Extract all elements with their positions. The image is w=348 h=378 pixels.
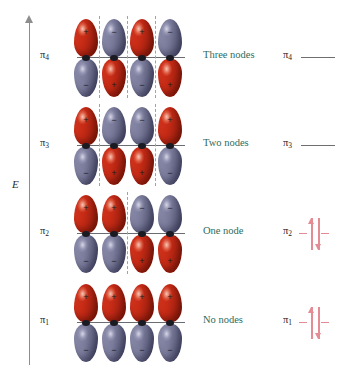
p-orbital: −+ [102,107,126,185]
phase-sign: − [130,81,154,90]
occupancy-symbol-subscript: 1 [288,318,292,327]
phase-sign: + [74,204,98,213]
occupancy-level: π1 [283,281,343,365]
phase-sign: − [102,28,126,37]
phase-sign: + [102,169,126,178]
orbital-lobe-lower: + [102,147,126,185]
orbital-node-pinch [138,320,146,326]
level-symbol-subscript: 4 [45,53,49,62]
orbital-node-pinch [110,55,118,61]
p-orbital: −+ [158,195,182,273]
level-symbol: π4 [40,49,49,62]
orbital-node-pinch [166,320,174,326]
orbital-lobe-lower: − [74,324,98,362]
orbital-lobe-upper: + [102,284,126,322]
orbital-lobe-lower: − [74,235,98,273]
electron-pair [307,218,323,250]
orbital-lobe-upper: + [74,107,98,145]
node-count-label: No nodes [203,314,243,325]
phase-sign: + [130,169,154,178]
p-orbital: +− [130,19,154,97]
orbital-lobe-lower: − [130,324,154,362]
orbital-node-pinch [82,320,90,326]
energy-level-line [299,322,307,323]
phase-sign: + [102,293,126,302]
orbital-lobe-upper: − [102,107,126,145]
orbital-lobe-lower: − [74,59,98,97]
orbital-node-pinch [110,320,118,326]
phase-sign: + [158,293,182,302]
node-count-label: One node [203,225,244,236]
p-orbital: −+ [130,195,154,273]
phase-sign: + [74,116,98,125]
p-orbital: −+ [102,19,126,97]
energy-level-row: π1+−+−+−+−No nodesπ1 [0,281,348,365]
orbital-lobe-lower: + [130,147,154,185]
orbital-node-pinch [110,231,118,237]
orbital-node-pinch [166,55,174,61]
occupancy-symbol-subscript: 3 [288,141,292,150]
occupancy-level: π2 [283,192,343,276]
phase-sign: − [130,346,154,355]
orbital-lobe-upper: + [102,195,126,233]
orbital-lobe-lower: − [102,235,126,273]
p-orbital: +− [74,284,98,362]
orbital-array: +−+−+−+− [72,281,190,365]
p-orbital: +− [74,107,98,185]
phase-sign: + [130,257,154,266]
phase-sign: − [158,204,182,213]
orbital-lobe-lower: + [158,235,182,273]
orbital-lobe-upper: + [158,107,182,145]
occupancy-level-symbol: π2 [283,225,292,238]
p-orbital: −+ [130,107,154,185]
node-plane-line [155,16,156,98]
orbital-node-pinch [138,55,146,61]
phase-sign: + [158,81,182,90]
p-orbital: +− [130,284,154,362]
electron-arrow-down [315,218,323,250]
energy-level-line [301,145,335,146]
orbital-lobe-upper: + [74,19,98,57]
phase-sign: − [102,346,126,355]
orbital-lobe-upper: − [102,19,126,57]
level-symbol-subscript: 3 [45,141,49,150]
orbital-lobe-lower: − [74,147,98,185]
level-symbol-subscript: 1 [45,318,49,327]
phase-sign: + [74,293,98,302]
phase-sign: − [74,346,98,355]
orbital-lobe-lower: − [130,59,154,97]
orbital-lobe-upper: + [74,195,98,233]
orbital-lobe-upper: + [74,284,98,322]
energy-level-line [301,57,335,58]
orbital-lobe-lower: − [102,324,126,362]
orbital-lobe-lower: − [158,324,182,362]
p-orbital: +− [74,195,98,273]
orbital-lobe-upper: − [130,195,154,233]
phase-sign: + [130,28,154,37]
node-plane-line [99,16,100,98]
orbital-lobe-lower: + [130,235,154,273]
phase-sign: − [158,346,182,355]
orbital-node-pinch [166,231,174,237]
energy-level-line [299,233,307,234]
phase-sign: − [102,257,126,266]
orbital-array: +−−+−++− [72,104,190,188]
orbital-lobe-upper: − [130,107,154,145]
orbital-lobe-upper: − [158,195,182,233]
occupancy-level-symbol: π3 [283,137,292,150]
occupancy-symbol-subscript: 4 [288,53,292,62]
phase-sign: − [74,169,98,178]
p-orbital: +− [74,19,98,97]
orbital-array: +−−++−−+ [72,16,190,100]
node-plane-line [99,104,100,186]
p-orbital: +− [102,284,126,362]
orbital-node-pinch [166,143,174,149]
phase-sign: + [158,116,182,125]
orbital-lobe-lower: + [158,59,182,97]
phase-sign: − [158,169,182,178]
phase-sign: − [74,257,98,266]
node-plane-line [155,104,156,186]
orbital-lobe-lower: + [102,59,126,97]
orbital-node-pinch [82,231,90,237]
orbital-lobe-upper: + [130,284,154,322]
